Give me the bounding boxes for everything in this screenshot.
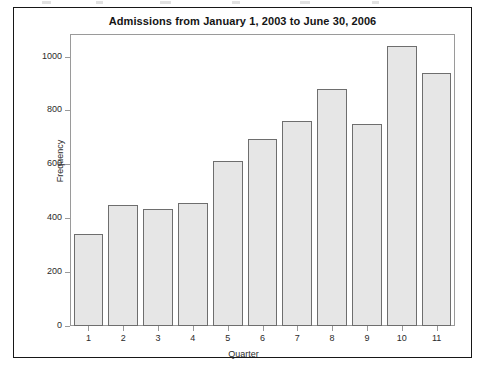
bar: [317, 89, 347, 326]
bar: [108, 205, 138, 326]
y-axis-tick-label: 1000: [42, 51, 62, 61]
y-axis-tick-label: 400: [47, 212, 62, 222]
bar: [387, 46, 417, 326]
bar: [422, 73, 452, 326]
bar: [352, 124, 382, 326]
y-axis-tick-mark: [65, 218, 70, 219]
y-axis-tick-mark: [65, 110, 70, 111]
x-axis-tick-mark: [332, 326, 333, 331]
bar: [248, 139, 278, 326]
chart-figure: Admissions from January 1, 2003 to June …: [13, 7, 472, 358]
bar: [178, 203, 208, 326]
x-axis-tick-mark: [158, 326, 159, 331]
x-axis-tick-mark: [437, 326, 438, 331]
x-axis-tick-mark: [123, 326, 124, 331]
y-axis-tick-label: 200: [47, 266, 62, 276]
y-axis-tick-mark: [65, 272, 70, 273]
bar: [143, 209, 173, 326]
bar: [213, 161, 243, 326]
x-axis-tick-mark: [263, 326, 264, 331]
y-axis-tick-mark: [65, 326, 70, 327]
y-axis-tick-mark: [65, 57, 70, 58]
x-axis-tick-mark: [402, 326, 403, 331]
scan-artifact: [0, 0, 485, 7]
plot-area: [71, 35, 454, 326]
y-axis-tick-label: 600: [47, 158, 62, 168]
x-axis-label: Quarter: [14, 349, 473, 359]
chart-title: Admissions from January 1, 2003 to June …: [14, 15, 471, 27]
y-axis-tick-label: 800: [47, 104, 62, 114]
x-axis-tick-label: 11: [417, 333, 457, 343]
bar: [282, 121, 312, 326]
y-axis-tick-mark: [65, 164, 70, 165]
x-axis-tick-mark: [367, 326, 368, 331]
x-axis-tick-mark: [193, 326, 194, 331]
x-axis-tick-mark: [88, 326, 89, 331]
x-axis-tick-mark: [228, 326, 229, 331]
bar: [74, 234, 104, 326]
y-axis-tick-label: 0: [57, 320, 62, 330]
x-axis-tick-mark: [297, 326, 298, 331]
